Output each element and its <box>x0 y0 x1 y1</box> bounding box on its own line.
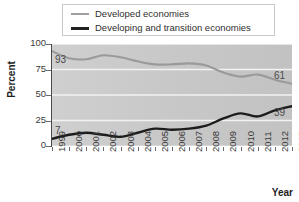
y-tick-mark <box>46 146 51 147</box>
data-value-annotation: 7 <box>55 125 61 136</box>
y-tick-mark <box>46 95 51 96</box>
x-tick-label: 2001 <box>90 131 101 152</box>
y-tick-label: 25 <box>24 114 46 125</box>
x-tick-mark <box>189 147 190 151</box>
x-tick-mark <box>138 147 139 151</box>
x-tick-mark <box>52 147 53 151</box>
x-tick-label: 2011 <box>262 132 273 152</box>
plot-area <box>52 44 292 146</box>
legend-swatch-developed-icon <box>71 13 89 15</box>
legend-item-developed: Developed economies <box>71 7 274 21</box>
x-tick-mark <box>155 147 156 151</box>
y-tick-label: 75 <box>24 63 46 74</box>
x-tick-label: 2006 <box>176 131 187 152</box>
x-tick-label: 2010 <box>245 131 256 152</box>
y-axis-title: Percent <box>6 56 17 104</box>
x-tick-label: 2007 <box>193 131 204 152</box>
legend-label-developing: Developing and transition economies <box>95 22 251 34</box>
x-tick-mark <box>103 147 104 151</box>
legend-item-developing: Developing and transition economies <box>71 21 274 35</box>
x-tick-label: 2002 <box>107 131 118 152</box>
series-line-developed <box>52 51 292 84</box>
x-tick-label: 2012 <box>279 131 290 152</box>
x-tick-mark <box>241 147 242 151</box>
x-tick-label: 2008 <box>210 131 221 152</box>
y-tick-label: 0 <box>24 139 46 150</box>
x-tick-mark <box>69 147 70 151</box>
legend-label-developed: Developed economies <box>95 8 189 20</box>
x-tick-label: 2004 <box>142 131 153 152</box>
x-tick-mark <box>121 147 122 151</box>
x-axis-title: Year <box>272 187 293 198</box>
y-tick-label: 50 <box>24 88 46 99</box>
x-tick-mark <box>223 147 224 151</box>
x-tick-label: 2009 <box>227 131 238 152</box>
legend-swatch-developing-icon <box>71 27 89 30</box>
y-tick-mark <box>46 44 51 45</box>
y-tick-label: 100 <box>24 37 46 48</box>
x-tick-mark <box>275 147 276 151</box>
x-tick-mark <box>172 147 173 151</box>
x-tick-label: 2013 <box>296 131 299 152</box>
y-tick-mark <box>46 70 51 71</box>
x-tick-label: 2005 <box>159 131 170 152</box>
y-tick-mark <box>46 121 51 122</box>
data-value-annotation: 93 <box>55 54 66 65</box>
x-tick-mark <box>292 147 293 151</box>
x-tick-mark <box>206 147 207 151</box>
plot-svg <box>52 44 292 146</box>
series-line-developing <box>52 106 292 139</box>
x-tick-label: 2003 <box>125 131 136 152</box>
data-value-annotation: 61 <box>274 70 285 81</box>
chart-legend: Developed economies Developing and trans… <box>62 4 275 36</box>
x-tick-mark <box>258 147 259 151</box>
x-tick-label: 2000 <box>73 131 84 152</box>
data-value-annotation: 39 <box>274 107 285 118</box>
x-tick-mark <box>86 147 87 151</box>
